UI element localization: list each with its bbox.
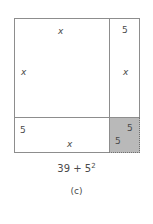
label-bottom-strip-left: 5	[20, 126, 26, 135]
figure-label: (c)	[0, 186, 153, 196]
expression-exponent: 2	[91, 162, 95, 170]
label-bottom-strip-center: x	[67, 140, 72, 149]
label-right-strip-middle: x	[123, 68, 128, 77]
label-large-square-left: x	[21, 68, 26, 77]
region-shaded-square	[109, 117, 140, 153]
figure-expression: 39 + 52	[0, 163, 153, 174]
label-shaded-square-bottom-left: 5	[115, 137, 121, 146]
label-right-strip-top: 5	[122, 26, 128, 35]
expression-lead: 39 + 5	[57, 163, 91, 174]
figure-stage: x x 5 x 5 x 5 5 39 + 52 (c)	[0, 0, 153, 224]
region-bottom-strip	[14, 117, 110, 153]
area-model-diagram: x x 5 x 5 x 5 5	[14, 18, 140, 153]
label-large-square-top: x	[58, 27, 63, 36]
label-shaded-square-top-right: 5	[127, 124, 133, 133]
